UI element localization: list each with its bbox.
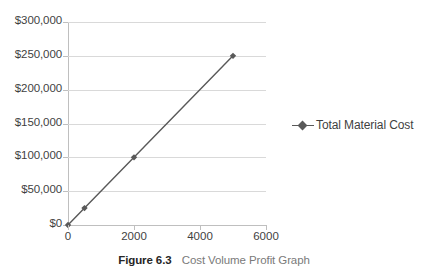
y-axis-tick-label: $150,000 — [0, 116, 62, 128]
caption-figure-number: Figure 6.3 — [118, 254, 171, 266]
caption-title: Cost Volume Profit Graph — [182, 254, 310, 266]
x-axis-tick-mark — [266, 225, 267, 230]
gridline — [68, 225, 266, 226]
series-line-total-material-cost — [68, 56, 233, 225]
x-axis-tick-mark — [68, 225, 69, 230]
y-axis-tick-label: $50,000 — [0, 183, 62, 195]
plot-area — [68, 22, 266, 225]
x-axis-tick-mark — [200, 225, 201, 230]
x-axis-tick-label: 2000 — [104, 230, 164, 242]
y-axis-tick-label: $100,000 — [0, 149, 62, 161]
x-axis-tick-label: 4000 — [170, 230, 230, 242]
y-axis-tick-label: $250,000 — [0, 48, 62, 60]
y-axis-tick-label: $200,000 — [0, 82, 62, 94]
x-axis-tick-label: 0 — [38, 230, 98, 242]
x-axis-tick-label: 6000 — [236, 230, 296, 242]
legend-label: Total Material Cost — [316, 118, 413, 132]
figure-container: $0$50,000$100,000$150,000$200,000$250,00… — [0, 0, 428, 274]
legend-marker-icon — [292, 119, 314, 131]
y-axis-tick-label: $300,000 — [0, 14, 62, 26]
figure-caption: Figure 6.3 Cost Volume Profit Graph — [0, 254, 428, 266]
legend: Total Material Cost — [292, 118, 413, 132]
series-layer — [68, 22, 266, 225]
x-axis-tick-mark — [134, 225, 135, 230]
y-axis-tick-label: $0 — [0, 217, 62, 229]
